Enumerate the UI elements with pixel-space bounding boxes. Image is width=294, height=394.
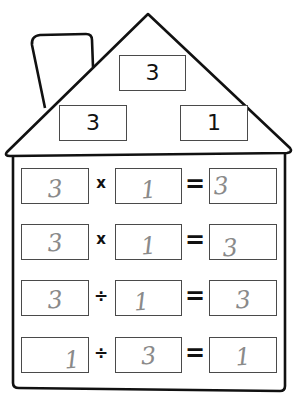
eq2-multiply-sign: x xyxy=(94,232,108,247)
roof-top-number: 3 xyxy=(119,62,186,84)
eq2-result: 3 xyxy=(211,235,249,261)
roof-left-number: 3 xyxy=(59,112,127,134)
eq1-multiply-sign: x xyxy=(94,176,108,191)
eq3-divide-sign: ÷ xyxy=(94,288,108,305)
eq4-operand-b: 3 xyxy=(114,342,183,371)
eq4-equals-sign: = xyxy=(185,341,203,365)
roof-right-number: 1 xyxy=(180,112,248,134)
eq4-divide-sign: ÷ xyxy=(94,345,108,362)
eq3-equals-sign: = xyxy=(185,284,203,308)
eq3-operand-b: 1 xyxy=(107,288,176,317)
eq3-operand-a: 3 xyxy=(20,286,90,315)
eq2-equals-sign: = xyxy=(185,228,203,252)
eq2-operand-b: 1 xyxy=(114,232,183,261)
eq2-operand-a: 3 xyxy=(20,229,90,258)
eq4-result: 1 xyxy=(208,343,278,372)
eq1-operand-a: 3 xyxy=(20,175,90,204)
eq1-operand-b: 1 xyxy=(114,176,183,205)
eq1-result: 3 xyxy=(208,173,234,199)
eq4-operand-a: 1 xyxy=(59,347,85,373)
eq1-equals-sign: = xyxy=(185,172,203,196)
eq3-result: 3 xyxy=(208,286,278,315)
